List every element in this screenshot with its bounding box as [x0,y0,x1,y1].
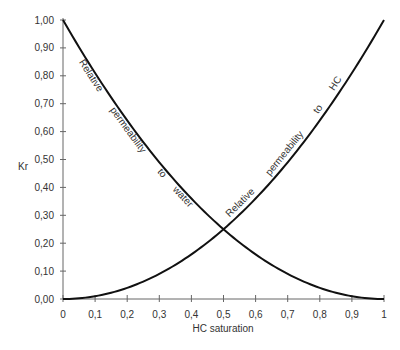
y-axis-ticks: 0,000,100,200,300,400,500,600,700,800,90… [35,15,66,305]
relative-permeability-chart: 0,000,100,200,300,400,500,600,700,800,90… [0,0,400,350]
water-curve [63,20,384,299]
x-tick-label: 0,4 [184,309,198,320]
x-tick-label: 0 [60,309,66,320]
hc-curve-label: to [311,102,325,116]
x-tick-label: 0,8 [313,309,327,320]
y-tick-label: 0,60 [35,126,55,137]
y-tick-label: 0,30 [35,210,55,221]
y-tick-label: 0,40 [35,182,55,193]
y-axis-label: Kr [18,161,29,172]
water-curve-label: water [170,183,196,210]
hc-curve-label: permeability [263,129,305,178]
x-tick-label: 0,3 [152,309,166,320]
water-curve-label: to [155,166,169,180]
y-tick-label: 0,90 [35,42,55,53]
x-tick-label: 1 [381,309,387,320]
y-tick-label: 0,50 [35,154,55,165]
x-tick-label: 0,7 [281,309,295,320]
y-tick-label: 0,00 [35,294,55,305]
y-tick-label: 0,20 [35,238,55,249]
x-tick-label: 0,1 [88,309,102,320]
y-tick-label: 0,70 [35,98,55,109]
x-tick-label: 0,2 [120,309,134,320]
water-curve-label: Relative [77,57,106,94]
y-tick-label: 1,00 [35,15,55,26]
hc-curve [63,20,384,299]
curves [63,20,384,299]
y-tick-label: 0,80 [35,70,55,81]
x-axis-label: HC saturation [192,323,253,334]
axes [63,18,384,299]
water-curve-label: permeability [108,105,149,155]
curve-labels: RelativepermeabilitytowaterRelativeperme… [77,57,344,219]
x-tick-label: 0,6 [249,309,263,320]
x-tick-label: 0,9 [345,309,359,320]
x-tick-label: 0,5 [217,309,231,320]
y-tick-label: 0,10 [35,266,55,277]
